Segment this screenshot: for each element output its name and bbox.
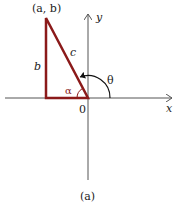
x-axis-label: x [166, 102, 173, 115]
origin-label: 0 [79, 103, 86, 116]
side-label: b [34, 60, 41, 73]
point-label: (a, b) [32, 2, 61, 15]
theta-arc [80, 75, 110, 98]
hypotenuse-label: c [70, 46, 76, 59]
alpha-arc [77, 89, 83, 99]
coordinate-diagram: (a, b) y x 0 c b α θ (a) [0, 0, 178, 215]
theta-label: θ [107, 74, 114, 87]
alpha-label: α [65, 85, 72, 96]
caption: (a) [80, 190, 95, 203]
y-axis-label: y [95, 11, 103, 24]
